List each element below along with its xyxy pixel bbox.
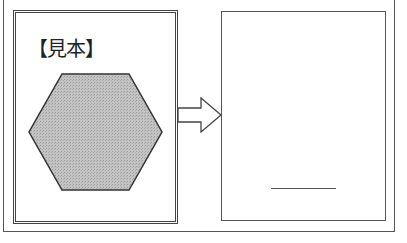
hexagon-shape [28,73,164,191]
answer-box [221,11,386,221]
sample-label: 【見本】 [28,33,104,62]
answer-blank-line [271,188,336,189]
right-arrow-icon [177,97,223,133]
